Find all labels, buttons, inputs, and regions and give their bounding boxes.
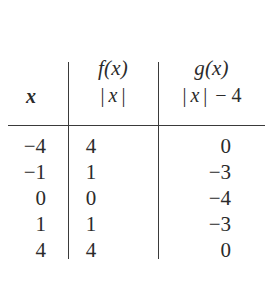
column-header-g: g(x) |x|− 4 — [159, 58, 264, 105]
header-separator-rule — [8, 125, 265, 126]
cell-g: −4 — [159, 185, 231, 211]
column-header-f-name: f(x) — [69, 58, 157, 79]
table-body: −4 4 0 −1 1 −3 0 0 −4 1 1 −3 4 4 0 — [0, 133, 269, 263]
column-header-g-name: g(x) — [159, 58, 264, 79]
function-value-table: x f(x) |x| g(x) |x|− 4 −4 4 0 — [0, 0, 269, 298]
table-row: 4 4 0 — [0, 237, 269, 263]
table-row: −1 1 −3 — [0, 159, 269, 185]
absolute-value-expression-f: |x| — [100, 85, 127, 105]
table-row: 0 0 −4 — [0, 185, 269, 211]
variable-x-g: x — [187, 85, 202, 105]
cell-x: 4 — [0, 237, 46, 263]
column-header-f-rule: |x| — [69, 85, 157, 105]
table-header: x f(x) |x| g(x) |x|− 4 — [0, 58, 269, 122]
absolute-bar-right-f: | — [120, 85, 126, 105]
column-header-x: x — [0, 86, 62, 106]
minus-four-term: − 4 — [208, 85, 241, 105]
cell-x: −1 — [0, 159, 46, 185]
cell-x: −4 — [0, 133, 46, 159]
cell-f: 1 — [69, 159, 113, 185]
cell-f: 1 — [69, 211, 113, 237]
cell-f: 0 — [69, 185, 113, 211]
cell-x: 0 — [0, 185, 46, 211]
cell-g: −3 — [159, 211, 231, 237]
variable-x-f: x — [106, 85, 121, 105]
cell-g: 0 — [159, 133, 231, 159]
column-header-f: f(x) |x| — [69, 58, 157, 105]
cell-f: 4 — [69, 237, 113, 263]
cell-g: −3 — [159, 159, 231, 185]
absolute-value-expression-g: |x|− 4 — [181, 85, 241, 105]
cell-g: 0 — [159, 237, 231, 263]
table-row: −4 4 0 — [0, 133, 269, 159]
cell-f: 4 — [69, 133, 113, 159]
column-header-g-rule: |x|− 4 — [159, 85, 264, 105]
cell-x: 1 — [0, 211, 46, 237]
table-row: 1 1 −3 — [0, 211, 269, 237]
column-header-x-label: x — [26, 85, 36, 107]
